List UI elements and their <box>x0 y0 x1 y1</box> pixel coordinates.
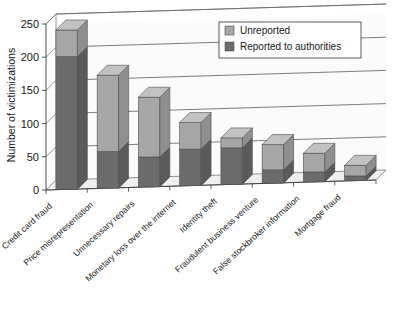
bar-8-unreported-front <box>345 165 366 176</box>
bar-6-unreported-front <box>262 145 283 170</box>
bar-1-reported-front <box>56 57 77 190</box>
category-label-5: Identity theft <box>177 195 219 234</box>
y-tick-label-200: 200 <box>21 51 39 63</box>
gridline-riser-50 <box>46 147 56 157</box>
y-tick-label-250: 250 <box>21 18 39 30</box>
legend-swatch-1 <box>225 26 234 35</box>
y-tick-label-50: 50 <box>27 151 39 163</box>
bar-7-unreported-front <box>303 153 324 172</box>
victimizations-stacked-bar-chart: 050100150200250 Number of victimizations… <box>0 0 394 323</box>
bar-1-reported-side <box>77 47 87 190</box>
chart-container: 050100150200250 Number of victimizations… <box>0 0 394 323</box>
category-label-2: Price misrepresentation <box>21 199 95 267</box>
bar-7 <box>303 143 334 182</box>
bar-8-reported-front <box>345 176 366 181</box>
bar-6 <box>262 135 293 184</box>
y-tick-label-100: 100 <box>21 118 39 130</box>
bar-4-unreported-front <box>180 123 201 150</box>
legend-label-1: Unreported <box>240 25 290 36</box>
bar-5 <box>221 128 252 184</box>
bar-3-reported-front <box>138 157 159 187</box>
bar-2-unreported-front <box>97 75 118 151</box>
bar-3 <box>138 87 169 187</box>
bar-7-reported-front <box>303 172 324 182</box>
gridline-riser-150 <box>46 80 56 90</box>
bar-3-unreported-front <box>138 97 159 157</box>
bar-5-unreported-front <box>221 138 242 148</box>
gridline-riser-200 <box>46 47 56 57</box>
bar-2-unreported-side <box>119 65 129 151</box>
bar-4 <box>180 113 211 186</box>
gridline-riser-100 <box>46 114 56 124</box>
x-axis-category-labels: Credit card fraudPrice misrepresentation… <box>0 192 343 284</box>
bar-5-reported-front <box>221 148 242 185</box>
legend-swatch-2 <box>225 42 234 51</box>
y-axis-title: Number of victimizations <box>5 48 17 162</box>
category-label-8: Mortgage fraud <box>293 192 343 239</box>
y-tick-label-150: 150 <box>21 84 39 96</box>
bar-2 <box>97 65 128 188</box>
bar-3-unreported-side <box>160 87 170 157</box>
bar-2-reported-front <box>97 152 118 189</box>
bar-6-reported-front <box>262 170 283 183</box>
y-axis-ticks: 050100150200250 <box>21 18 46 196</box>
chart-legend: UnreportedReported to authorities <box>219 22 361 58</box>
category-label-7: False stockbroker information <box>211 193 302 276</box>
legend-label-2: Reported to authorities <box>240 41 341 52</box>
bar-1-unreported-front <box>56 30 77 57</box>
y-tick-label-0: 0 <box>33 184 39 196</box>
bar-4-reported-front <box>180 149 201 186</box>
bar-1 <box>56 20 87 189</box>
